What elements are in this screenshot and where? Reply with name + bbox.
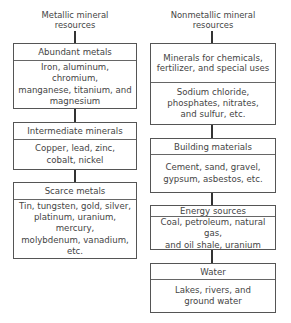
box-header: Intermediate minerals	[14, 123, 136, 140]
scarce-metals-box: Scarce metals Tin, tungsten, gold, silve…	[13, 182, 137, 259]
body-line: platinum, uranium, mercury,	[17, 212, 133, 235]
body-line: Tin, tungsten, gold, silver,	[17, 201, 133, 212]
title-line: resources	[150, 20, 276, 30]
water-box: Water Lakes, rivers, and ground water	[150, 263, 276, 313]
body-line: magnesium	[17, 96, 133, 107]
box-body: Iron, aluminum, chromium, manganese, tit…	[14, 61, 136, 108]
connector-line	[74, 31, 76, 43]
connector-line	[211, 193, 213, 205]
abundant-metals-box: Abundant metals Iron, aluminum, chromium…	[13, 43, 137, 109]
chemical-minerals-box: Minerals for chemicals, fertilizer, and …	[150, 43, 276, 125]
body-line: Iron, aluminum, chromium,	[17, 62, 133, 85]
box-header: Energy sources	[151, 206, 275, 217]
body-line: Cement, sand, gravel,	[163, 162, 262, 173]
body-line: phosphates, nitrates,	[167, 98, 258, 109]
body-line: Lakes, rivers, and	[175, 285, 251, 296]
body-line: etc.	[17, 246, 133, 257]
connector-line	[211, 31, 213, 43]
header-line: Minerals for chemicals,	[163, 53, 262, 63]
box-body: Sodium chloride, phosphates, nitrates, a…	[151, 83, 275, 124]
title-line: resources	[13, 20, 137, 30]
body-line: gypsum, asbestos, etc.	[163, 174, 262, 185]
body-line: molybdenum, vanadium,	[17, 235, 133, 246]
body-line: and oil shale, uranium	[154, 240, 272, 251]
box-body: Cement, sand, gravel, gypsum, asbestos, …	[151, 155, 275, 192]
box-header: Minerals for chemicals, fertilizer, and …	[151, 44, 275, 83]
box-body: Coal, petroleum, natural gas, and oil sh…	[151, 217, 275, 251]
box-body: Copper, lead, zinc, cobalt, nickel	[14, 140, 136, 169]
box-header: Abundant metals	[14, 44, 136, 61]
header-line: fertilizer, and special uses	[157, 63, 269, 73]
box-header: Scarce metals	[14, 183, 136, 200]
metallic-resources-title: Metallic mineral resources	[13, 10, 137, 30]
title-line: Nonmetallic mineral	[150, 10, 276, 20]
box-header: Building materials	[151, 139, 275, 155]
body-line: and sulfur, etc.	[167, 109, 258, 120]
body-line: manganese, titanium, and	[17, 85, 133, 96]
energy-sources-box: Energy sources Coal, petroleum, natural …	[150, 205, 276, 250]
box-body: Lakes, rivers, and ground water	[151, 280, 275, 312]
body-line: ground water	[175, 296, 251, 307]
connector-line	[74, 109, 76, 122]
connector-line	[211, 250, 213, 263]
body-line: Sodium chloride,	[167, 87, 258, 98]
body-line: cobalt, nickel	[35, 155, 115, 166]
nonmetallic-resources-title: Nonmetallic mineral resources	[150, 10, 276, 30]
body-line: Copper, lead, zinc,	[35, 143, 115, 154]
title-line: Metallic mineral	[13, 10, 137, 20]
body-line: Coal, petroleum, natural gas,	[154, 217, 272, 240]
connector-line	[211, 125, 213, 138]
connector-line	[74, 170, 76, 182]
box-body: Tin, tungsten, gold, silver, platinum, u…	[14, 200, 136, 258]
building-materials-box: Building materials Cement, sand, gravel,…	[150, 138, 276, 193]
intermediate-minerals-box: Intermediate minerals Copper, lead, zinc…	[13, 122, 137, 170]
box-header: Water	[151, 264, 275, 280]
